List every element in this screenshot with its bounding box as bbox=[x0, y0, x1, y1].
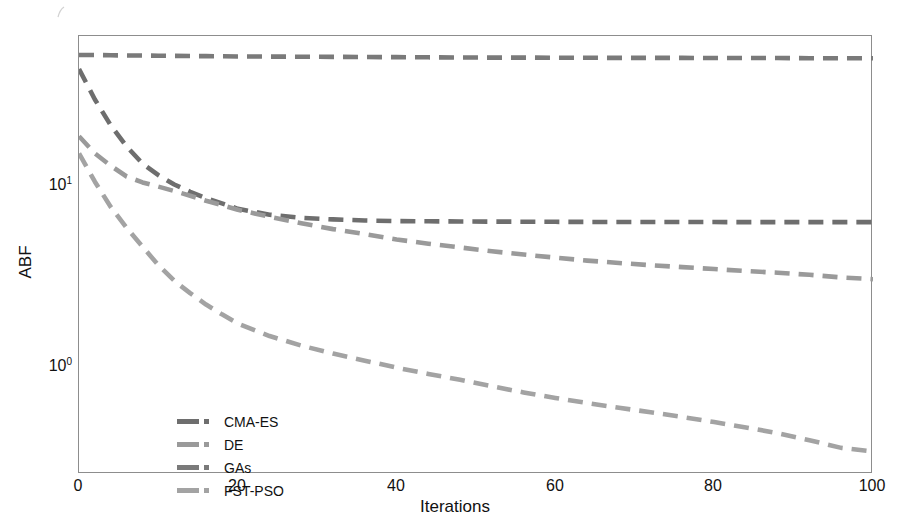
legend-swatch-cma-es bbox=[177, 416, 211, 427]
legend-label-cma-es: CMA-ES bbox=[224, 415, 278, 429]
x-tick-100: 100 bbox=[850, 477, 894, 495]
y-axis-label-wrapper: ABF bbox=[6, 0, 40, 525]
legend-label-de: DE bbox=[224, 438, 243, 452]
legend-item-gas: GAs bbox=[177, 456, 347, 479]
series-line-cma-es bbox=[79, 69, 873, 222]
legend-swatch-fst-pso bbox=[177, 485, 211, 496]
series-line-de bbox=[79, 136, 873, 279]
x-axis-label: Iterations bbox=[0, 497, 910, 517]
legend-dash-long bbox=[177, 465, 199, 470]
legend-dash-short bbox=[204, 442, 209, 447]
legend-dash-long bbox=[177, 488, 199, 493]
legend-dash-short bbox=[204, 419, 209, 424]
legend-dash-short bbox=[204, 488, 209, 493]
x-tick-20: 20 bbox=[217, 477, 257, 495]
x-tick-0: 0 bbox=[58, 477, 98, 495]
x-tick-60: 60 bbox=[535, 477, 575, 495]
legend-dash-long bbox=[177, 442, 199, 447]
legend-dash-short bbox=[204, 465, 209, 470]
series-line-fst-pso bbox=[79, 153, 873, 451]
legend: CMA-ES DE GAs bbox=[177, 410, 347, 502]
legend-item-cma-es: CMA-ES bbox=[177, 410, 347, 433]
series-line-gas bbox=[79, 55, 873, 58]
legend-dash-long bbox=[177, 419, 199, 424]
legend-swatch-de bbox=[177, 439, 211, 450]
series-canvas bbox=[79, 36, 873, 474]
legend-label-gas: GAs bbox=[224, 461, 251, 475]
chart-figure: 101 100 ABF CMA-ES DE bbox=[0, 0, 910, 525]
x-tick-40: 40 bbox=[376, 477, 416, 495]
x-tick-80: 80 bbox=[693, 477, 733, 495]
legend-swatch-gas bbox=[177, 462, 211, 473]
y-axis-label: ABF bbox=[16, 212, 36, 312]
plot-area: CMA-ES DE GAs bbox=[78, 35, 872, 473]
legend-item-de: DE bbox=[177, 433, 347, 456]
